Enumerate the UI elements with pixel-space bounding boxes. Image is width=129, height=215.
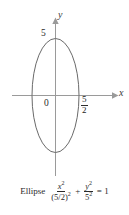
equation-equals-sign: = [97, 187, 102, 196]
y-axis-label: y [58, 10, 62, 20]
five-halves-fraction: 5 2 [81, 95, 88, 115]
equation-plus-operator: + [75, 187, 80, 196]
figure-caption: Ellipse x2 (5/2)2 + y2 52 = 1 [0, 182, 129, 201]
x-term-numerator: x2 [57, 182, 66, 192]
x-denominator-base: (5/2) [51, 192, 68, 202]
caption-label: Ellipse [20, 187, 45, 196]
x-term-fraction: x2 (5/2)2 [50, 182, 72, 201]
x-axis-label: x [119, 88, 123, 98]
y-axis-tick-label-5: 5 [41, 29, 46, 39]
x-axis-tick-label-five-halves: 5 2 [80, 95, 89, 115]
y-term-denominator: 52 [84, 192, 93, 201]
y-numerator-exponent: 2 [89, 180, 92, 186]
ellipse-figure: y x 0 5 5 2 Ellipse x2 (5/2)2 + y2 52 = … [0, 0, 129, 215]
origin-label: 0 [44, 99, 49, 109]
y-term-fraction: y2 52 [84, 182, 93, 201]
ellipse-equation: x2 (5/2)2 + y2 52 = 1 [49, 182, 108, 201]
y-denominator-exponent: 2 [89, 191, 92, 197]
equation-right-hand-side: 1 [104, 187, 109, 196]
fraction-denominator: 2 [81, 106, 88, 116]
x-numerator-exponent: 2 [61, 180, 64, 186]
fraction-numerator: 5 [81, 95, 88, 106]
x-denominator-exponent: 2 [68, 191, 71, 197]
x-term-denominator: (5/2)2 [50, 192, 72, 201]
x-axis-arrowhead [112, 92, 119, 98]
